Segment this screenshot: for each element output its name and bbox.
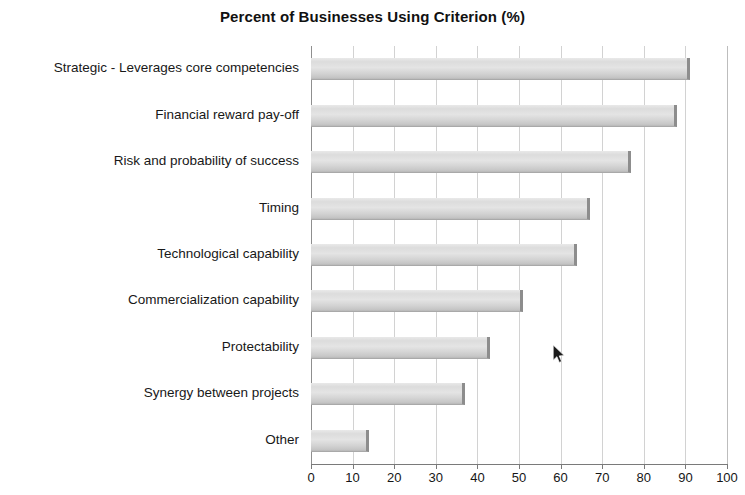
x-tick-label-100: 100 xyxy=(707,470,745,485)
x-tick-50 xyxy=(519,464,520,469)
bar-row xyxy=(311,185,727,231)
x-tick-label-30: 30 xyxy=(416,470,456,485)
bar-row xyxy=(311,92,727,138)
bar-row xyxy=(311,325,727,371)
mouse-pointer-icon xyxy=(552,344,566,364)
x-tick-10 xyxy=(353,464,354,469)
bar xyxy=(311,58,690,80)
x-tick-label-40: 40 xyxy=(457,470,497,485)
x-tick-60 xyxy=(561,464,562,469)
bar xyxy=(311,151,631,173)
x-tick-label-20: 20 xyxy=(374,470,414,485)
bar-row xyxy=(311,278,727,324)
bar-row xyxy=(311,46,727,92)
bar xyxy=(311,337,490,359)
bar-row xyxy=(311,232,727,278)
bar-row xyxy=(311,371,727,417)
x-tick-label-50: 50 xyxy=(499,470,539,485)
bar xyxy=(311,430,369,452)
x-tick-30 xyxy=(436,464,437,469)
x-tick-label-70: 70 xyxy=(582,470,622,485)
bar xyxy=(311,290,523,312)
x-tick-label-10: 10 xyxy=(333,470,373,485)
category-label: Strategic - Leverages core competencies xyxy=(54,60,299,75)
bar-row xyxy=(311,139,727,185)
bar-row xyxy=(311,418,727,464)
category-label: Technological capability xyxy=(157,246,299,261)
x-tick-label-60: 60 xyxy=(541,470,581,485)
bar xyxy=(311,105,677,127)
bar-chart: Percent of Businesses Using Criterion (%… xyxy=(0,0,745,495)
bar xyxy=(311,383,465,405)
category-label: Synergy between projects xyxy=(144,385,299,400)
chart-title: Percent of Businesses Using Criterion (%… xyxy=(0,8,745,25)
category-label: Risk and probability of success xyxy=(114,153,299,168)
x-tick-40 xyxy=(477,464,478,469)
x-tick-0 xyxy=(311,464,312,469)
bar xyxy=(311,198,590,220)
gridline-100 xyxy=(727,46,728,464)
x-tick-label-90: 90 xyxy=(665,470,705,485)
x-tick-100 xyxy=(727,464,728,469)
x-tick-20 xyxy=(394,464,395,469)
x-tick-label-80: 80 xyxy=(624,470,664,485)
x-tick-70 xyxy=(602,464,603,469)
bar xyxy=(311,244,577,266)
x-tick-80 xyxy=(644,464,645,469)
y-axis-category-labels: Strategic - Leverages core competenciesF… xyxy=(0,46,305,464)
category-label: Timing xyxy=(259,200,299,215)
x-tick-label-0: 0 xyxy=(291,470,331,485)
category-label: Financial reward pay-off xyxy=(155,107,299,122)
category-label: Commercialization capability xyxy=(128,292,299,307)
category-label: Protectability xyxy=(222,339,299,354)
category-label: Other xyxy=(265,432,299,447)
plot-area xyxy=(311,46,727,464)
x-tick-90 xyxy=(685,464,686,469)
